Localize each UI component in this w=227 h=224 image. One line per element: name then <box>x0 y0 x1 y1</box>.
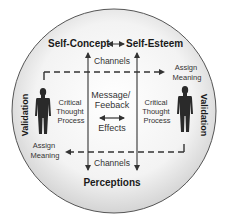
communication-diagram: Self-Concept Self-Esteem Channels Channe… <box>0 0 227 224</box>
channels-top-label: Channels <box>94 56 130 66</box>
message-feedback-label: Message/ Feeback <box>91 90 133 110</box>
right-critical-thought-process: Critical Thought Process <box>142 98 172 125</box>
validation-left-label: Validation <box>20 94 30 137</box>
assign-meaning-right: Assign Meaning <box>173 63 202 82</box>
perceptions-label: Perceptions <box>83 177 141 188</box>
channels-bottom-label: Channels <box>94 158 130 168</box>
assign-meaning-left: Assign Meaning <box>31 141 60 160</box>
effects-label: Effects <box>98 123 126 133</box>
self-concept-label: Self-Concept <box>48 38 110 49</box>
self-esteem-label: Self-Esteem <box>126 38 183 49</box>
validation-right-label: Validation <box>199 94 209 137</box>
left-critical-thought-process: Critical Thought Process <box>56 98 86 125</box>
